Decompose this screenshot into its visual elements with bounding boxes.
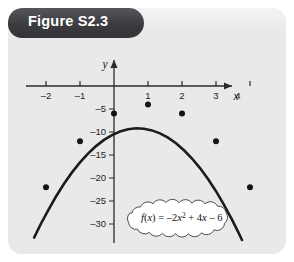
y-tick-label: –10 <box>90 126 106 137</box>
x-axis-label: x <box>232 90 239 102</box>
graph-svg: –2 –1 1 2 3 4 –5 –10 –15 –20 <box>8 38 286 254</box>
eq-equals: = <box>156 212 167 223</box>
data-point <box>145 101 151 107</box>
x-tick-label: –2 <box>41 90 52 101</box>
figure-title: Figure S2.3 <box>28 13 108 29</box>
x-tick-label: 2 <box>179 90 184 101</box>
data-point <box>213 138 219 144</box>
x-ticks-group <box>46 81 250 86</box>
y-axis-arrow-icon <box>110 60 117 68</box>
data-point <box>247 184 253 190</box>
x-tick-label: 3 <box>213 90 218 101</box>
y-tick-label: –30 <box>90 218 106 229</box>
equation-text: f(x) = –2x2 + 4x – 6 <box>141 211 223 225</box>
x-axis-arrow-icon <box>224 82 232 89</box>
y-tick-label: –25 <box>90 195 106 206</box>
eq-term3: – 6 <box>207 212 223 223</box>
x-tick-labels-group: –2 –1 1 2 3 4 <box>41 90 241 101</box>
plot-area: –2 –1 1 2 3 4 –5 –10 –15 –20 <box>8 38 286 254</box>
eq-term1-coef: –2 <box>166 212 178 223</box>
figure-title-tab: Figure S2.3 <box>8 8 144 38</box>
y-tick-label: –5 <box>95 103 106 114</box>
y-tick-label: –20 <box>90 172 106 183</box>
y-ticks-group <box>109 109 114 224</box>
data-point <box>179 111 185 117</box>
data-point <box>43 184 49 190</box>
y-axis-label: y <box>101 58 108 71</box>
equation-callout: f(x) = –2x2 + 4x – 6 <box>127 199 227 237</box>
y-tick-labels-group: –5 –10 –15 –20 –25 –30 <box>90 103 106 229</box>
eq-term2: + 4 <box>186 212 203 223</box>
figure-card: Figure S2.3 –2 –1 1 <box>8 8 286 254</box>
x-tick-label: –1 <box>75 90 86 101</box>
x-tick-label: 1 <box>145 90 150 101</box>
data-point <box>77 138 83 144</box>
data-points-group <box>43 101 253 190</box>
data-point <box>111 111 117 117</box>
